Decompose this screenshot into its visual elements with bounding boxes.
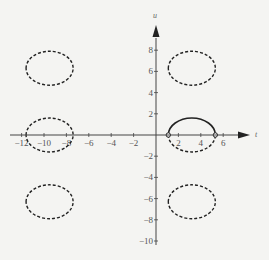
x-tick-label: −4	[106, 138, 116, 148]
x-tick-label: 2	[176, 138, 181, 148]
x-tick-label: −2	[129, 138, 139, 148]
dashed-closed-curve	[26, 185, 73, 219]
y-tick-label: −10	[139, 236, 154, 246]
y-tick-label: −8	[143, 215, 153, 225]
phase-plot: −12−10−8−6−4−2246−10−8−6−4−22468 t u	[0, 0, 269, 260]
y-tick-label: −6	[143, 194, 153, 204]
x-axis-label: t	[255, 130, 258, 139]
y-tick-label: 6	[149, 66, 154, 76]
y-tick-label: −4	[143, 172, 153, 182]
dashed-closed-curve	[168, 51, 215, 85]
axis-ticks: −12−10−8−6−4−2246−10−8−6−4−22468	[15, 45, 226, 246]
y-tick-label: 2	[149, 109, 154, 119]
dashed-closed-curve	[26, 51, 73, 85]
x-tick-label: 6	[221, 138, 226, 148]
y-axis-arrow-icon	[153, 25, 160, 37]
solid-arc	[168, 118, 215, 135]
y-tick-label: 8	[149, 45, 154, 55]
x-axis-arrow-icon	[238, 132, 250, 139]
y-tick-label: −2	[143, 151, 153, 161]
dashed-closed-curve	[168, 185, 215, 219]
y-tick-label: 4	[149, 88, 154, 98]
x-tick-label: −10	[37, 138, 52, 148]
x-tick-label: −6	[84, 138, 94, 148]
x-tick-label: 4	[199, 138, 204, 148]
y-axis-label: u	[153, 11, 157, 20]
